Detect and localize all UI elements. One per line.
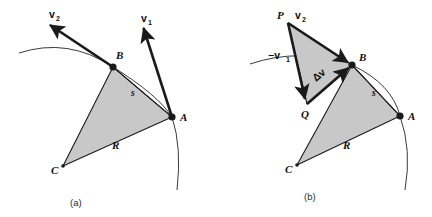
edge-label-s-b: s bbox=[371, 88, 376, 98]
triangle-abc-a bbox=[63, 67, 172, 166]
panel-a: B A C R s v 2 v 1 (a) bbox=[19, 8, 187, 208]
vector-sub-v2-b: 2 bbox=[302, 16, 306, 23]
vertex-label-a-b: A bbox=[407, 110, 415, 122]
panel-caption-a: (a) bbox=[70, 197, 82, 208]
vertex-label-b-a: B bbox=[115, 49, 123, 61]
edge-label-r-a: R bbox=[111, 139, 119, 151]
vertex-label-q-b: Q bbox=[301, 108, 309, 120]
vector-label-v2-a: v bbox=[49, 8, 55, 20]
vertex-label-p-b: P bbox=[277, 9, 284, 21]
vertex-dot-c-a bbox=[61, 164, 65, 168]
vertex-dot-a-a bbox=[168, 113, 175, 120]
vertex-label-c-a: C bbox=[51, 164, 59, 176]
vector-label-neg-v1-b: −v bbox=[268, 49, 280, 61]
edge-label-r-b: R bbox=[342, 139, 350, 151]
edge-label-s-a: s bbox=[130, 88, 135, 98]
vertex-label-b-b: B bbox=[358, 51, 366, 63]
panel-b: B A C P Q R s v 2 −v 1 Δv (b) bbox=[250, 9, 415, 202]
vector-label-v1-a: v bbox=[141, 12, 147, 24]
vector-sub-neg-v1-b: 1 bbox=[286, 56, 290, 63]
vertex-dot-b-a bbox=[109, 63, 116, 70]
vertex-dot-a-b bbox=[396, 112, 403, 119]
figure-container: B A C R s v 2 v 1 (a) bbox=[0, 0, 432, 217]
vertex-dot-c-b bbox=[295, 163, 299, 167]
vertex-dot-b-b bbox=[348, 61, 355, 68]
vertex-label-a-a: A bbox=[179, 111, 187, 123]
vector-sub-v2-a: 2 bbox=[56, 15, 60, 22]
physics-diagram-svg: B A C R s v 2 v 1 (a) bbox=[0, 0, 432, 217]
vector-label-v2-b: v bbox=[295, 9, 301, 21]
vector-v2-a[interactable] bbox=[50, 25, 113, 67]
vector-sub-v1-a: 1 bbox=[148, 19, 152, 26]
vertex-label-c-b: C bbox=[285, 163, 293, 175]
panel-caption-b: (b) bbox=[304, 191, 316, 202]
